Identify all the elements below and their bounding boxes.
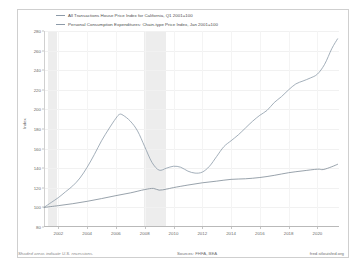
- y-axis-tick-label: 140: [34, 166, 41, 171]
- y-axis-tick-label: 80: [36, 225, 41, 230]
- x-axis-tick-label: 2020: [313, 231, 323, 236]
- x-axis-tick-mark: [231, 227, 232, 229]
- plot-area: 80100120140160180200220240260280 2002200…: [44, 31, 339, 227]
- fred-url[interactable]: fred.stlouisfed.org: [310, 251, 344, 256]
- y-axis-tick-label: 280: [34, 29, 41, 34]
- x-axis-tick-label: 2004: [82, 231, 92, 236]
- y-axis-tick-mark: [42, 70, 44, 71]
- data-series-lines: [44, 31, 339, 227]
- series-line: [44, 39, 338, 208]
- series-line: [44, 164, 338, 207]
- y-axis-tick-mark: [42, 168, 44, 169]
- y-axis-tick-mark: [42, 148, 44, 149]
- y-axis-tick-mark: [42, 89, 44, 90]
- y-axis-tick-mark: [42, 129, 44, 130]
- y-axis-tick-mark: [42, 50, 44, 51]
- recession-note: Shaded areas indicate U.S. recessions.: [18, 251, 93, 256]
- chart-legend: All Transactions House Price Index for C…: [56, 12, 336, 30]
- legend-label-house-price-index: All Transactions House Price Index for C…: [68, 13, 193, 18]
- x-axis-tick-mark: [260, 227, 261, 229]
- x-axis-tick-mark: [317, 227, 318, 229]
- x-axis-tick-mark: [174, 227, 175, 229]
- y-axis-tick-mark: [42, 109, 44, 110]
- x-axis-tick-label: 2014: [226, 231, 236, 236]
- x-axis-tick-label: 2010: [169, 231, 179, 236]
- legend-item-pce-price-index: Personal Consumption Expenditures: Chain…: [56, 21, 336, 28]
- y-axis-tick-label: 260: [34, 48, 41, 53]
- y-axis-tick-label: 200: [34, 107, 41, 112]
- x-axis-tick-mark: [58, 227, 59, 229]
- y-axis-tick-label: 180: [34, 127, 41, 132]
- y-axis-tick-label: 160: [34, 146, 41, 151]
- y-axis-tick-label: 220: [34, 87, 41, 92]
- y-axis-tick-mark: [42, 227, 44, 228]
- x-axis-tick-label: 2002: [53, 231, 63, 236]
- chart-footer: Shaded areas indicate U.S. recessions. S…: [18, 251, 350, 259]
- legend-swatch-pce-price-index: [56, 24, 65, 25]
- x-axis-tick-mark: [87, 227, 88, 229]
- y-axis-tick-label: 240: [34, 68, 41, 73]
- y-axis-tick-mark: [42, 31, 44, 32]
- legend-label-pce-price-index: Personal Consumption Expenditures: Chain…: [68, 22, 218, 27]
- x-axis-tick-mark: [116, 227, 117, 229]
- sources-label: Sources: FHFA, BEA: [177, 251, 217, 256]
- y-axis-title: Index: [22, 118, 27, 129]
- y-axis-tick-mark: [42, 187, 44, 188]
- x-axis-tick-mark: [202, 227, 203, 229]
- x-axis-tick-mark: [145, 227, 146, 229]
- x-axis-tick-label: 2012: [197, 231, 207, 236]
- y-axis-tick-label: 120: [34, 185, 41, 190]
- y-axis-tick-label: 100: [34, 205, 41, 210]
- legend-item-house-price-index: All Transactions House Price Index for C…: [56, 12, 336, 19]
- y-axis-tick-mark: [42, 207, 44, 208]
- x-axis-tick-mark: [289, 227, 290, 229]
- legend-swatch-house-price-index: [56, 15, 65, 16]
- x-axis-tick-label: 2006: [111, 231, 121, 236]
- fred-chart: All Transactions House Price Index for C…: [0, 0, 360, 276]
- x-axis-tick-label: 2016: [255, 231, 265, 236]
- x-axis-tick-label: 2008: [140, 231, 150, 236]
- x-axis-tick-label: 2018: [284, 231, 294, 236]
